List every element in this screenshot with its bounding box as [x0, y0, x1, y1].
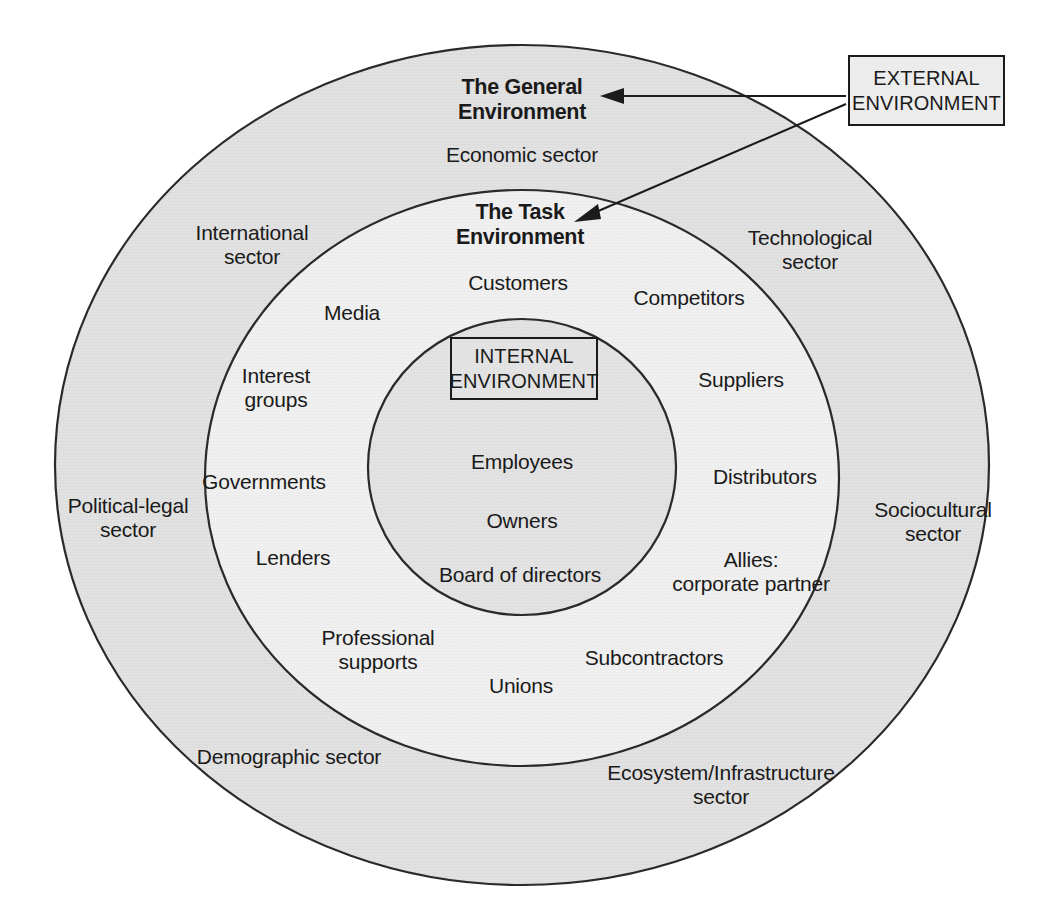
- label-demographic-sector: Demographic sector: [197, 745, 381, 769]
- label-allies-corporate-partner: Allies: corporate partner: [672, 548, 830, 597]
- label-interest-groups: Interest groups: [242, 364, 310, 413]
- diagram-canvas: EXTERNAL ENVIRONMENT INTERNAL ENVIRONMEN…: [0, 0, 1044, 921]
- label-competitors: Competitors: [633, 286, 744, 310]
- general-environment-heading: The General Environment: [458, 75, 586, 125]
- label-distributors: Distributors: [713, 465, 817, 489]
- label-professional-supports: Professional supports: [321, 626, 434, 675]
- label-board-of-directors: Board of directors: [439, 563, 601, 587]
- label-unions: Unions: [489, 674, 553, 698]
- label-international-sector: International sector: [196, 221, 309, 270]
- label-sociocultural-sector: Sociocultural sector: [874, 498, 992, 547]
- task-environment-heading: The Task Environment: [456, 200, 584, 250]
- label-media: Media: [324, 301, 380, 325]
- external-environment-callout-box: EXTERNAL ENVIRONMENT: [848, 55, 1005, 126]
- label-suppliers: Suppliers: [698, 368, 784, 392]
- label-lenders: Lenders: [256, 546, 331, 570]
- label-technological-sector: Technological sector: [748, 226, 873, 275]
- label-employees: Employees: [471, 450, 573, 474]
- label-political-legal-sector: Political-legal sector: [68, 494, 189, 543]
- label-ecosystem-infrastructure-sector: Ecosystem/Infrastructure sector: [607, 761, 834, 810]
- label-owners: Owners: [486, 509, 557, 533]
- label-economic-sector: Economic sector: [446, 143, 598, 167]
- internal-environment-callout-box: INTERNAL ENVIRONMENT: [450, 337, 598, 400]
- label-customers: Customers: [468, 271, 568, 295]
- label-governments: Governments: [202, 470, 326, 494]
- label-subcontractors: Subcontractors: [585, 646, 723, 670]
